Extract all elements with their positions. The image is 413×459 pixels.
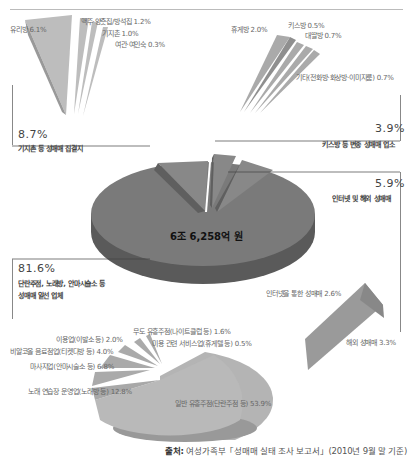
business-caption-line2: 성매매 알선 업체: [18, 290, 63, 300]
label-kissbang: 키스방 0.5%: [288, 20, 324, 30]
source-text: 여성가족부「성매매 실태 조사 보고서」(2010년 9월 말 기준): [186, 446, 407, 456]
source-note: 출처: 여성가족부「성매매 실태 조사 보고서」(2010년 9월 말 기준): [165, 444, 407, 456]
label-daddalbang: 대딸방 0.7%: [305, 30, 341, 40]
label-overseas: 해외 성매매 3.3%: [346, 337, 396, 347]
label-hyugebang: 휴게방 2.0%: [231, 24, 267, 34]
label-etc: 기타(전화방·화상방·이미지룸) 0.7%: [296, 72, 394, 82]
business-percent: 81.6%: [18, 262, 55, 275]
label-internet: 인터넷을 통한 성매매 2.6%: [266, 288, 341, 298]
label-barbershop: 이용업(이발소 등) 2.0%: [56, 334, 123, 344]
main-pie: [91, 154, 315, 284]
variant-percent: 3.9%: [375, 122, 405, 135]
business-caption-line1: 단란주점, 노래방, 안마시술소 등: [18, 278, 105, 288]
business-frame: [12, 259, 13, 319]
brothel-frame: [12, 85, 13, 145]
internet-frame: [400, 172, 401, 332]
label-danran: 일반 유흥주점(단란주점 등) 53.9%: [175, 398, 271, 408]
total-amount: 6조 6,258억 원: [170, 228, 243, 243]
label-massage: 마사지업(안마시술소 등) 6.8%: [30, 361, 114, 371]
label-beer-bar: 맥주·양줏집/방석집 1.2%: [81, 16, 151, 26]
internet-percent: 5.9%: [375, 177, 405, 190]
label-beauty: 미용 관련 서비스업(휴게텔 등) 0.5%: [152, 338, 252, 348]
label-nightclub: 무도 유흥주점(나이트클럽 등) 1.6%: [133, 326, 231, 336]
label-gijichon: 기지촌 1.0%: [102, 28, 138, 38]
label-ticket-dabang: 비알코올 음료점업(티켓다방 등) 4.0%: [10, 346, 114, 356]
source-prefix: 출처:: [165, 446, 184, 456]
label-inn: 여관·여인숙 0.3%: [115, 39, 165, 49]
label-yuribang: 유리방 6.1%: [10, 24, 46, 34]
brothel-caption: 기지촌 등 성매매 집결지: [18, 143, 83, 153]
brothel-percent: 8.7%: [18, 128, 48, 141]
label-noraebang: 노래 연습장 운영업(노래방 등) 12.8%: [28, 386, 132, 396]
internet-caption: 인터넷 및 해외 성매매: [332, 193, 391, 203]
variant-caption: 키스방 등 변종 성매매 업소: [322, 139, 395, 149]
